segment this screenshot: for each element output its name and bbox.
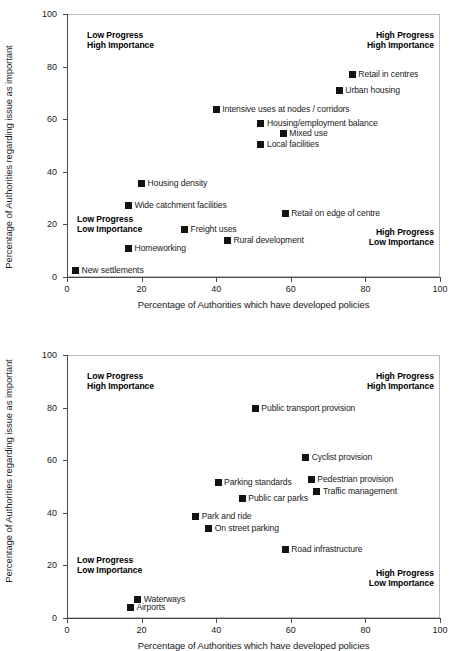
data-point-marker — [215, 479, 222, 486]
data-point-marker — [252, 405, 259, 412]
y-tick-label-100: 100 — [33, 10, 57, 19]
data-point-marker — [280, 130, 287, 137]
data-point-label: Wide catchment facilities — [135, 201, 227, 210]
y-tick-label-40: 40 — [33, 168, 57, 177]
x-axis-title-1: Percentage of Authorities which have dev… — [67, 299, 440, 310]
data-point-label: Parking standards — [224, 478, 292, 487]
quadrant-high-progress-low-importance: High Progress Low Importance — [344, 227, 434, 247]
x-tick-0 — [67, 277, 68, 282]
data-point-label: New settlements — [82, 266, 144, 275]
quadrant-low-progress-high-importance: Low Progress High Importance — [87, 30, 154, 50]
x-tick-label-100: 100 — [427, 285, 453, 294]
x-tick-80 — [365, 277, 366, 282]
y-axis-title-1: Percentage of Authorities regarding issu… — [0, 0, 18, 314]
data-point-label: Pedestrian provision — [317, 475, 393, 484]
y-tick-80 — [63, 67, 68, 68]
data-point-label: Local facilities — [267, 140, 319, 149]
data-point-label: Freight uses — [190, 225, 236, 234]
data-point-label: Public transport provision — [261, 404, 355, 413]
data-point-label: Public car parks — [248, 494, 308, 503]
data-point-marker — [239, 495, 246, 502]
x-tick-label-60: 60 — [278, 285, 304, 294]
data-point-label: Airports — [136, 603, 165, 612]
data-point-label: Traffic management — [323, 487, 397, 496]
x-tick-label-0: 0 — [54, 285, 80, 294]
x-tick-20 — [142, 618, 143, 623]
data-point-marker — [313, 488, 320, 495]
x-tick-label-0: 0 — [54, 626, 80, 635]
y-tick-60 — [63, 119, 68, 120]
y-tick-label-80: 80 — [33, 404, 57, 413]
x-axis-line — [67, 277, 440, 278]
y-tick-100 — [63, 14, 68, 15]
data-point-label: Retail on edge of centre — [291, 209, 380, 218]
y-tick-label-100: 100 — [33, 351, 57, 360]
quadrant-high-progress-low-importance: High Progress Low Importance — [344, 568, 434, 588]
x-tick-40 — [216, 618, 217, 623]
data-point-marker — [205, 525, 212, 532]
data-point-marker — [257, 120, 264, 127]
data-point-label: Housing density — [148, 179, 208, 188]
y-tick-40 — [63, 513, 68, 514]
data-point-marker — [192, 513, 199, 520]
data-point-label: On street parking — [215, 524, 279, 533]
x-tick-label-60: 60 — [278, 626, 304, 635]
data-point-label: Homeworking — [135, 244, 186, 253]
scatter-chart-transport: Percentage of Authorities regarding issu… — [0, 314, 455, 628]
data-point-label: Mixed use — [289, 129, 327, 138]
y-tick-label-60: 60 — [33, 456, 57, 465]
data-point-label: Road infrastructure — [291, 545, 362, 554]
quadrant-low-progress-high-importance: Low Progress High Importance — [87, 371, 154, 391]
data-point-marker — [181, 226, 188, 233]
y-tick-label-20: 20 — [33, 561, 57, 570]
data-point-label: Rural development — [233, 236, 303, 245]
data-point-label: Intensive uses at nodes / corridors — [222, 105, 349, 114]
quadrant-high-progress-high-importance: High Progress High Importance — [344, 371, 434, 391]
data-point-marker — [282, 210, 289, 217]
data-point-label: Cyclist provision — [312, 453, 372, 462]
x-tick-60 — [291, 618, 292, 623]
data-point-label: Retail in centres — [358, 70, 418, 79]
x-tick-label-40: 40 — [203, 626, 229, 635]
y-tick-80 — [63, 408, 68, 409]
y-tick-40 — [63, 172, 68, 173]
x-tick-100 — [440, 277, 441, 282]
y-axis-title-2: Percentage of Authorities regarding issu… — [0, 314, 18, 628]
y-tick-label-80: 80 — [33, 63, 57, 72]
y-tick-20 — [63, 565, 68, 566]
x-tick-label-80: 80 — [352, 626, 378, 635]
y-tick-20 — [63, 224, 68, 225]
data-point-marker — [282, 546, 289, 553]
quadrant-low-progress-low-importance: Low Progress Low Importance — [77, 555, 142, 575]
y-tick-100 — [63, 355, 68, 356]
x-axis-title-2: Percentage of Authorities which have dev… — [67, 640, 440, 651]
x-tick-80 — [365, 618, 366, 623]
y-tick-label-0: 0 — [33, 273, 57, 282]
x-tick-100 — [440, 618, 441, 623]
y-axis-line — [67, 355, 68, 618]
data-point-marker — [138, 180, 145, 187]
y-tick-label-40: 40 — [33, 509, 57, 518]
y-tick-60 — [63, 460, 68, 461]
x-tick-label-80: 80 — [352, 285, 378, 294]
data-point-marker — [125, 245, 132, 252]
data-point-marker — [213, 106, 220, 113]
data-point-label: Housing/employment balance — [267, 119, 378, 128]
x-tick-label-20: 20 — [129, 626, 155, 635]
x-tick-label-40: 40 — [203, 285, 229, 294]
data-point-label: Park and ride — [202, 512, 252, 521]
data-point-marker — [224, 237, 231, 244]
y-tick-label-60: 60 — [33, 115, 57, 124]
data-point-marker — [308, 476, 315, 483]
data-point-marker — [127, 604, 134, 611]
x-tick-40 — [216, 277, 217, 282]
data-point-marker — [125, 202, 132, 209]
x-axis-line — [67, 618, 440, 619]
data-point-marker — [302, 454, 309, 461]
x-tick-label-20: 20 — [129, 285, 155, 294]
x-tick-0 — [67, 618, 68, 623]
data-point-marker — [336, 87, 343, 94]
quadrant-high-progress-high-importance: High Progress High Importance — [344, 30, 434, 50]
data-point-label: Urban housing — [345, 86, 400, 95]
x-tick-label-100: 100 — [427, 626, 453, 635]
